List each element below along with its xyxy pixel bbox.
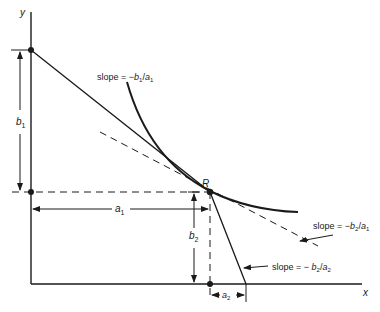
b1-label: b1 (16, 116, 26, 129)
diagram-svg: y x R b1 a1 b2 a2 slope = −b1/a1 sl (0, 0, 380, 312)
a2-label: a2 (222, 290, 231, 301)
point-bottom (207, 281, 213, 287)
frontier-line (31, 50, 246, 284)
point-left (28, 189, 34, 195)
a1-label: a1 (115, 203, 125, 216)
point-R-label: R (202, 178, 209, 189)
point-R (207, 189, 213, 195)
slope-b2-a2-annotation: slope = − b2/a2 (272, 262, 331, 273)
slope-b2-a2-pointer (244, 266, 268, 268)
slope-b2-a1-pointer (300, 235, 333, 241)
y-axis-label: y (19, 7, 26, 18)
b2-label: b2 (189, 230, 199, 243)
x-axis-label: x (362, 287, 369, 298)
slope-b1-a1-annotation: slope = −b1/a1 (97, 72, 154, 83)
slope-b2-a1-annotation: slope = −b2/a1 (313, 221, 370, 232)
diagram-canvas: y x R b1 a1 b2 a2 slope = −b1/a1 sl (0, 0, 380, 312)
